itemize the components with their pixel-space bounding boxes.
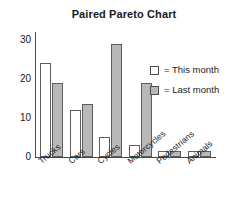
legend-item-this-month: = This month [150, 60, 246, 80]
y-tick-label-20: 20 [11, 74, 31, 84]
x-axis-category-labels: TrucksCarsCyclesMotorcyclesPedestriansAn… [35, 159, 235, 209]
y-tick-label-0: 0 [11, 152, 31, 162]
bar-trucks-this-month [40, 63, 51, 157]
bar-cycles-last-month [111, 44, 122, 157]
legend-item-last-month: = Last month [150, 80, 246, 100]
paired-pareto-chart: Paired Pareto Chart 0102030 TrucksCarsCy… [0, 0, 248, 209]
chart-legend: = This month = Last month [150, 60, 246, 100]
chart-title: Paired Pareto Chart [0, 8, 248, 20]
legend-swatch-this-month-icon [150, 66, 159, 75]
legend-swatch-last-month-icon [150, 86, 159, 95]
bar-group-trucks [40, 32, 70, 157]
bar-group-cycles [99, 32, 129, 157]
legend-label-this-month: = This month [164, 65, 219, 75]
y-tick-label-10: 10 [11, 113, 31, 123]
bar-group-cars [70, 32, 100, 157]
legend-label-last-month: = Last month [164, 85, 219, 95]
y-tick-label-30: 30 [11, 35, 31, 45]
